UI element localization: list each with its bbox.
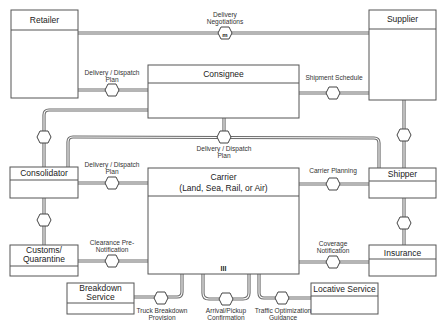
entity-breakdown-service[interactable]: Breakdown Service — [67, 283, 134, 314]
entity-carrier-subtitle: (Land, Sea, Rail, or Air) — [179, 183, 268, 193]
entity-consignee-title: Consignee — [203, 69, 244, 79]
hex-retailer-consignee[interactable] — [105, 84, 119, 96]
label-carrier-planning: Carrier Planning — [309, 167, 357, 175]
hex-consignee-plan[interactable] — [217, 131, 231, 143]
entity-customs-title-2: Quarantine — [23, 254, 65, 264]
entity-carrier[interactable]: Carrier (Land, Sea, Rail, or Air) III — [148, 168, 299, 274]
entity-consolidator[interactable]: Consolidator — [10, 167, 78, 198]
hex-truck-breakdown[interactable] — [154, 292, 168, 304]
label-truck-breakdown-1: Truck Breakdown — [136, 307, 187, 314]
entity-locative-title: Locative Service — [313, 284, 376, 294]
entity-carrier-title: Carrier — [211, 172, 237, 182]
hex-coverage[interactable] — [326, 256, 340, 268]
hex-shipment-schedule[interactable] — [326, 87, 340, 99]
entity-locative-service[interactable]: Locative Service — [311, 283, 378, 314]
entity-retailer-title: Retailer — [30, 15, 59, 25]
connector-consignee-consolidator[interactable] — [44, 110, 148, 168]
label-clearance-2: Notification — [96, 246, 129, 253]
label-traffic-2: Guidance — [269, 314, 298, 321]
entity-consolidator-title: Consolidator — [20, 168, 68, 178]
entity-supplier-title: Supplier — [387, 14, 418, 24]
hex-shipper-insurance[interactable] — [397, 217, 411, 229]
entity-insurance-title: Insurance — [384, 248, 422, 258]
label-consolidator-carrier-2: Plan — [105, 168, 119, 175]
hex-clearance[interactable] — [105, 255, 119, 267]
entity-supplier[interactable]: Supplier — [369, 10, 436, 100]
hex-traffic[interactable] — [275, 292, 289, 304]
hex-supplier-shipper[interactable] — [397, 129, 411, 141]
entity-insurance[interactable]: Insurance — [369, 245, 436, 276]
label-coverage-2: Notification — [317, 247, 350, 254]
hex-carrier-planning[interactable] — [326, 178, 340, 190]
carrier-mark: III — [221, 265, 227, 272]
hex-consolidator-customs[interactable] — [37, 214, 51, 226]
label-arrival-2: Confirmation — [207, 314, 245, 321]
entity-shipper-title: Shipper — [388, 169, 417, 179]
hex-consignee-consolidator[interactable] — [37, 131, 51, 143]
entity-consignee[interactable]: Consignee — [148, 65, 299, 118]
entity-shipper[interactable]: Shipper — [369, 168, 436, 198]
label-retailer-consignee-2: Plan — [105, 76, 119, 83]
label-delivery-negotiations-2: Negotiations — [207, 18, 244, 26]
supply-chain-diagram: m Retailer Supplier Consignee Consolidat… — [0, 0, 445, 328]
hex-consolidator-carrier[interactable] — [105, 177, 119, 189]
label-truck-breakdown-2: Provision — [148, 314, 175, 321]
label-shipment-schedule: Shipment Schedule — [305, 74, 363, 82]
hex-arrival-pickup[interactable] — [219, 293, 233, 305]
negotiation-mark: m — [222, 32, 227, 38]
label-consignee-plan-2: Plan — [217, 152, 231, 159]
entity-retailer[interactable]: Retailer — [11, 10, 78, 98]
entity-breakdown-title-2: Service — [86, 292, 115, 302]
label-clearance-1: Clearance Pre- — [90, 239, 134, 246]
entity-customs-quarantine[interactable]: Customs/ Quarantine — [10, 245, 78, 276]
